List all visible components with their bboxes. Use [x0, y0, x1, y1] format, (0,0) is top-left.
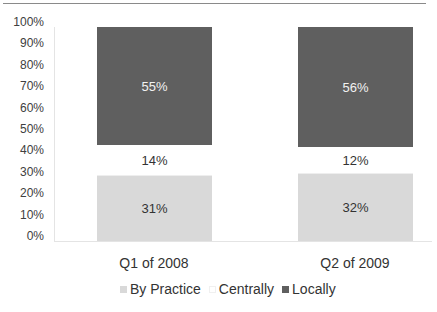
data-label: 31%	[141, 201, 167, 216]
legend-item-by-practice: By Practice	[120, 281, 201, 297]
legend-label: Centrally	[219, 281, 274, 297]
y-tick-label: 0%	[0, 229, 44, 243]
bar-segment-centrally: 12%	[298, 147, 413, 173]
legend: By Practice Centrally Locally	[120, 281, 344, 297]
y-tick-label: 20%	[0, 186, 44, 200]
y-tick-label: 10%	[0, 208, 44, 222]
title-rule	[3, 3, 426, 4]
y-tick-label: 30%	[0, 165, 44, 179]
legend-swatch-icon	[120, 286, 127, 293]
x-axis-line	[54, 241, 432, 242]
bar-q1-2008: 55% 14% 31%	[97, 27, 212, 241]
y-axis-line	[54, 27, 55, 241]
y-tick-label: 50%	[0, 122, 44, 136]
y-tick-label: 40%	[0, 143, 44, 157]
y-tick-label: 70%	[0, 79, 44, 93]
bar-q2-2009: 56% 12% 32%	[298, 27, 413, 241]
legend-swatch-icon	[209, 286, 216, 293]
bar-segment-locally: 56%	[298, 27, 413, 147]
x-category-label: Q1 of 2008	[84, 255, 224, 271]
bar-segment-centrally: 14%	[97, 145, 212, 175]
legend-item-centrally: Centrally	[209, 281, 274, 297]
data-label: 56%	[342, 80, 368, 95]
data-label: 32%	[342, 200, 368, 215]
y-tick-label: 80%	[0, 58, 44, 72]
data-label: 55%	[141, 79, 167, 94]
y-tick-label: 60%	[0, 101, 44, 115]
y-tick-label: 90%	[0, 36, 44, 50]
data-label: 12%	[342, 153, 368, 168]
legend-label: By Practice	[130, 281, 201, 297]
bar-segment-locally: 55%	[97, 27, 212, 145]
data-label: 14%	[141, 153, 167, 168]
x-category-label: Q2 of 2009	[285, 255, 425, 271]
bar-segment-by-practice: 31%	[97, 175, 212, 241]
legend-label: Locally	[292, 281, 336, 297]
legend-swatch-icon	[282, 286, 289, 293]
y-tick-label: 100%	[0, 15, 44, 29]
legend-item-locally: Locally	[282, 281, 336, 297]
bar-segment-by-practice: 32%	[298, 173, 413, 241]
